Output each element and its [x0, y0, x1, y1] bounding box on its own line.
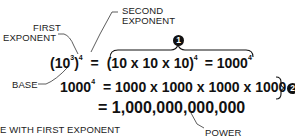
marker-one-icon: 1 [173, 35, 184, 46]
row1-rhs-result-exp: 4 [248, 54, 252, 61]
equation-row-2: 10004 = 1000 x 1000 x 1000 x 1000 [60, 79, 286, 95]
row1-rhs-main: (10 x 10 x 10) [107, 55, 194, 71]
row1-equals: = [91, 55, 99, 71]
row1-rhs-result: = 1000 [205, 55, 248, 71]
row1-lhs-open: (10 [50, 55, 70, 71]
second-exponent-leader [91, 12, 118, 52]
first-exponent-value: 3 [70, 54, 74, 61]
equation-row-3: = 1,000,000,000,000 [98, 99, 245, 117]
first-exponent-label-line2: EXPONENT [3, 33, 56, 43]
first-exponent-leader [58, 34, 78, 54]
power-label: POWER [205, 128, 241, 138]
second-exponent-label-line2: EXPONENT [122, 16, 175, 26]
equation-row-1: (103)4 = (10 x 10 x 10)4 = 10004 [50, 55, 252, 71]
row2-rhs: = 1000 x 1000 x 1000 x 1000 [103, 79, 286, 95]
row2-lhs: 1000 [60, 79, 91, 95]
marker-two-icon: 2 [287, 83, 295, 94]
row1-rhs-exp: 4 [194, 54, 198, 61]
second-exponent-value: 4 [79, 54, 83, 61]
base-label: BASE [12, 80, 38, 90]
row2-lhs-exp: 4 [91, 78, 95, 85]
bottom-left-label: E WITH FIRST EXPONENT [0, 125, 120, 135]
